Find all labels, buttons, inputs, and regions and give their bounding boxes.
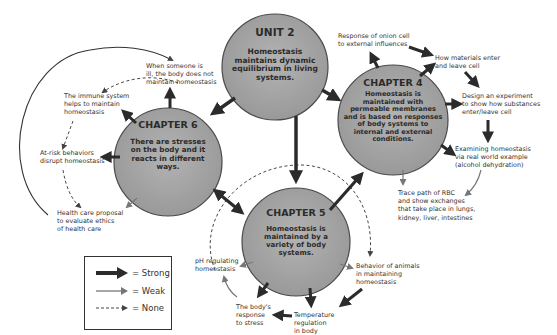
- label-onion-cell: Response of onion cell to external influ…: [338, 32, 410, 48]
- label-trace-rbc: Trace path of RBC and show exchanges tha…: [398, 189, 475, 222]
- label-at-risk: At-risk behaviors disrupt homeostasis: [40, 149, 105, 165]
- legend-weak: = Weak: [95, 285, 165, 297]
- label-behavior: Behavior of animals in maintaining homeo…: [356, 262, 420, 287]
- legend: = Strong = Weak = None: [84, 256, 172, 330]
- label-body-stress: The body's response to stress: [236, 303, 271, 328]
- label-design-experiment: Design an experiment to show how substan…: [462, 92, 540, 117]
- label-temperature: Temperature regulation in body: [294, 311, 334, 335]
- chapter4-body: Homeostasis is maintained with permeable…: [343, 91, 443, 144]
- legend-none: = None: [95, 302, 164, 314]
- label-ph: pH regulating homeostasis: [195, 257, 239, 273]
- weak-arrow-icon: [95, 285, 129, 297]
- chapter5-body: Homeostasis is maintained by a variety o…: [256, 225, 336, 257]
- chapter4-title: CHAPTER 4: [353, 77, 433, 88]
- strong-arrow-icon: [95, 267, 129, 279]
- label-materials: How materials enter and leave cell: [435, 54, 500, 70]
- chapter6-title: CHAPTER 6: [128, 119, 208, 130]
- chapter5-title: CHAPTER 5: [256, 207, 336, 218]
- unit2-title: UNIT 2: [235, 26, 315, 38]
- label-examining: Examining homeostasis via real world exa…: [455, 145, 531, 170]
- unit2-body: Homeostasis maintains dynamic equilibriu…: [230, 48, 320, 83]
- chapter6-body: There are stresses on the body and it re…: [128, 138, 208, 171]
- label-ill: When someone is ill, the body does not m…: [146, 62, 216, 87]
- dashed-arrow-icon: [95, 302, 129, 314]
- legend-strong: = Strong: [95, 267, 170, 279]
- label-immune: The immune system helps to maintain home…: [64, 92, 129, 117]
- label-health-care: Health care proposal to evaluate ethics …: [57, 209, 123, 234]
